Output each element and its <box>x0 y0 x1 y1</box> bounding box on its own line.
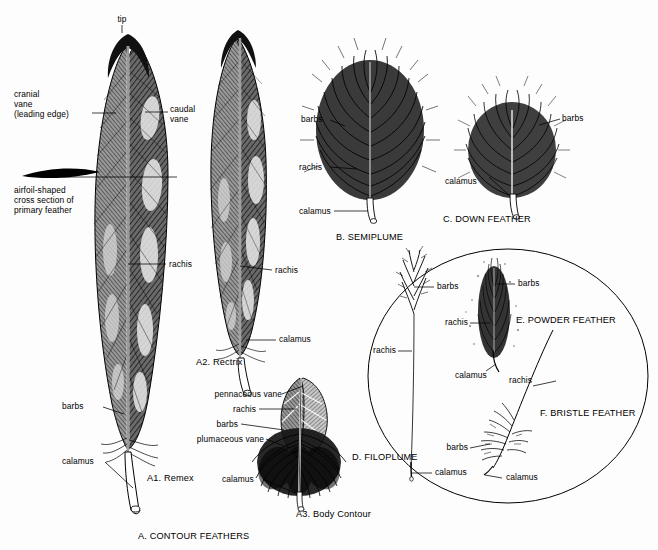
label-contour-calamus: calamus <box>222 474 254 484</box>
label-bristle-calamus: calamus <box>506 472 538 482</box>
label-semiplume-barbs: barbs <box>301 114 322 124</box>
filoplume-feather-illustration <box>396 246 432 481</box>
label-airfoil-cross-section: airfoil-shaped cross section of primary … <box>14 185 74 216</box>
label-remex-rachis: rachis <box>169 259 192 269</box>
label-plumaceous-vane: plumaceous vane <box>162 434 264 444</box>
remex-feather-illustration <box>94 34 168 514</box>
label-powder-barbs: barbs <box>518 278 539 288</box>
label-a2-rectrix: A2. Rectrix <box>196 357 243 368</box>
heading-f-bristle-feather: F. BRISTLE FEATHER <box>540 408 635 419</box>
heading-b-semiplume: B. SEMIPLUME <box>336 232 403 243</box>
label-cranial-vane: cranial vane (leading edge) <box>14 89 69 120</box>
label-powder-rachis: rachis <box>432 317 468 327</box>
label-contour-rachis: rachis <box>182 404 256 414</box>
semiplume-feather-illustration <box>300 38 440 223</box>
down-feather-illustration <box>454 76 570 219</box>
label-filoplume-rachis: rachis <box>360 345 396 355</box>
label-rectrix-rachis: rachis <box>275 265 298 275</box>
label-bristle-barbs: barbs <box>434 442 468 452</box>
rectrix-feather-illustration <box>210 30 266 396</box>
label-caudal-vane: caudal vane <box>170 104 195 124</box>
label-down-calamus: calamus <box>445 176 477 186</box>
label-tip: tip <box>96 14 148 24</box>
heading-e-powder-feather: E. POWDER FEATHER <box>516 315 616 326</box>
figure-canvas: tip cranial vane (leading edge) caudal v… <box>0 0 658 550</box>
label-contour-barbs: barbs <box>182 419 238 429</box>
label-a1-remex: A1. Remex <box>147 473 194 484</box>
label-a3-body-contour: A3. Body Contour <box>296 509 371 520</box>
label-remex-calamus: calamus <box>62 456 94 466</box>
label-filoplume-calamus: calamus <box>435 467 467 477</box>
heading-a-contour-feathers: A. CONTOUR FEATHERS <box>138 531 249 542</box>
label-semiplume-calamus: calamus <box>299 206 331 216</box>
feather-plate-illustration <box>0 0 658 550</box>
heading-d-filoplume: D. FILOPLUME <box>352 452 418 463</box>
label-pennaceous-vane: pennaceous vane <box>182 389 282 399</box>
label-remex-barbs: barbs <box>62 401 83 411</box>
powder-feather-illustration <box>465 258 522 372</box>
label-powder-calamus: calamus <box>455 370 487 380</box>
label-rectrix-calamus: calamus <box>279 334 311 344</box>
label-semiplume-rachis: rachis <box>299 162 322 172</box>
heading-c-down-feather: C. DOWN FEATHER <box>443 214 531 225</box>
label-down-barbs: barbs <box>562 113 583 123</box>
label-filoplume-barbs: barbs <box>437 281 458 291</box>
label-bristle-rachis: rachis <box>496 375 532 385</box>
